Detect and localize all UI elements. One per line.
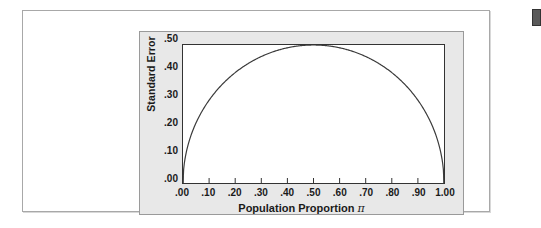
- pi-symbol: π: [357, 202, 364, 215]
- y-tick-label: .40: [148, 61, 178, 72]
- standard-error-curve-svg: [183, 45, 444, 183]
- x-axis-title-text: Population Proportion: [238, 202, 354, 214]
- figure-frame: Standard Error .00 .10 .20 .30 .40 .50: [22, 10, 490, 212]
- y-tick-label: .00: [148, 173, 178, 184]
- x-tick-label: .70: [359, 187, 373, 198]
- x-tick-label: 1.00: [435, 187, 454, 198]
- x-axis-tick-labels: .00 .10 .20 .30 .40 .50 .60 .70 .80 .90 …: [182, 187, 445, 201]
- x-tick-label: .10: [201, 187, 215, 198]
- x-tick-label: .60: [333, 187, 347, 198]
- x-tick-label: .80: [385, 187, 399, 198]
- standard-error-curve: [183, 45, 444, 183]
- x-tick-label: .00: [175, 187, 189, 198]
- x-tick-label: .20: [228, 187, 242, 198]
- x-axis-ticks: [183, 176, 444, 183]
- page-edge-tab: [532, 9, 541, 26]
- x-tick-label: .50: [307, 187, 321, 198]
- x-axis-title: Population Proportion π: [140, 202, 463, 215]
- y-axis-tick-labels: .00 .10 .20 .30 .40 .50: [148, 38, 178, 184]
- chart-panel: Standard Error .00 .10 .20 .30 .40 .50: [139, 31, 464, 215]
- y-tick-label: .10: [148, 145, 178, 156]
- y-tick-label: .30: [148, 89, 178, 100]
- plot-area: [182, 44, 445, 184]
- x-tick-label: .30: [254, 187, 268, 198]
- y-tick-label: .20: [148, 117, 178, 128]
- x-tick-label: .40: [280, 187, 294, 198]
- x-tick-label: .90: [412, 187, 426, 198]
- y-tick-label: .50: [148, 33, 178, 44]
